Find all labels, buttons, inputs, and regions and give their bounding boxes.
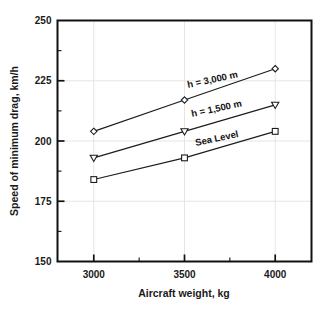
chart-figure: 300035004000 150175200225250 h = 3,000 m… <box>0 0 327 312</box>
y-axis-title: Speed of minimum drag, km/h <box>8 66 20 216</box>
y-tick-label: 250 <box>35 15 52 26</box>
x-tick-label: 4000 <box>264 269 287 280</box>
y-tick-label: 150 <box>35 256 52 267</box>
speed-of-minimum-drag-chart: 300035004000 150175200225250 h = 3,000 m… <box>0 0 327 312</box>
data-marker-square <box>272 128 278 134</box>
x-tick-label: 3500 <box>173 269 196 280</box>
y-tick-label: 200 <box>35 136 52 147</box>
y-tick-label: 225 <box>35 75 52 86</box>
x-axis-title: Aircraft weight, kg <box>138 287 230 299</box>
y-tick-label: 175 <box>35 196 52 207</box>
data-marker-square <box>91 177 97 183</box>
x-tick-label: 3000 <box>83 269 106 280</box>
data-marker-square <box>182 155 188 161</box>
